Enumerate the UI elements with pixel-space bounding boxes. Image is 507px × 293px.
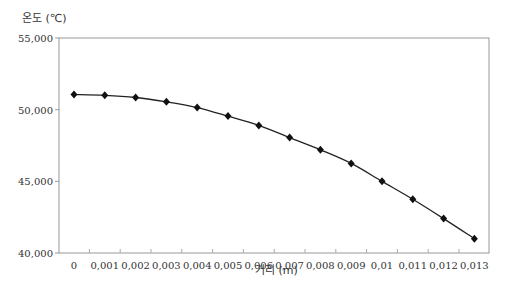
diamond-marker-icon xyxy=(317,146,324,154)
y-axis: 40,00045,00050,00055,000 xyxy=(18,33,59,259)
diamond-marker-icon xyxy=(71,91,78,99)
x-tick-label: 0,001 xyxy=(90,260,119,271)
x-tick-label: 0,002 xyxy=(121,260,150,271)
diamond-marker-icon xyxy=(471,235,478,243)
y-tick-label: 45,000 xyxy=(18,176,53,187)
x-tick-label: 0,004 xyxy=(183,260,212,271)
x-tick-label: 0,008 xyxy=(306,260,335,271)
y-axis-title: 온도 (℃) xyxy=(22,12,66,25)
diamond-marker-icon xyxy=(255,121,262,129)
temperature-distance-chart: 온도 (℃) 40,00045,00050,00055,000 00,0010,… xyxy=(0,0,507,293)
diamond-marker-icon xyxy=(440,215,447,223)
diamond-marker-icon xyxy=(101,91,108,99)
y-tick-label: 55,000 xyxy=(18,33,53,44)
diamond-marker-icon xyxy=(225,112,232,120)
diamond-marker-icon xyxy=(286,134,293,142)
x-tick-label: 0 xyxy=(71,260,77,271)
plot-frame xyxy=(59,38,489,253)
series-markers xyxy=(71,91,478,243)
x-tick-label: 0,013 xyxy=(460,260,489,271)
diamond-marker-icon xyxy=(379,177,386,185)
x-tick-label: 0,009 xyxy=(337,260,366,271)
x-tick-label: 0,005 xyxy=(214,260,243,271)
series-line xyxy=(74,95,474,239)
diamond-marker-icon xyxy=(163,98,170,106)
x-axis-title: 거리 (m) xyxy=(255,264,298,277)
y-tick-label: 40,000 xyxy=(18,248,53,259)
diamond-marker-icon xyxy=(132,93,139,101)
y-tick-label: 50,000 xyxy=(18,105,53,116)
x-tick-label: 0,012 xyxy=(429,260,458,271)
diamond-marker-icon xyxy=(409,195,416,203)
diamond-marker-icon xyxy=(194,104,201,112)
x-tick-label: 0,003 xyxy=(152,260,181,271)
x-tick-label: 0,01 xyxy=(371,260,393,271)
x-tick-label: 0,011 xyxy=(398,260,427,271)
diamond-marker-icon xyxy=(348,159,355,167)
